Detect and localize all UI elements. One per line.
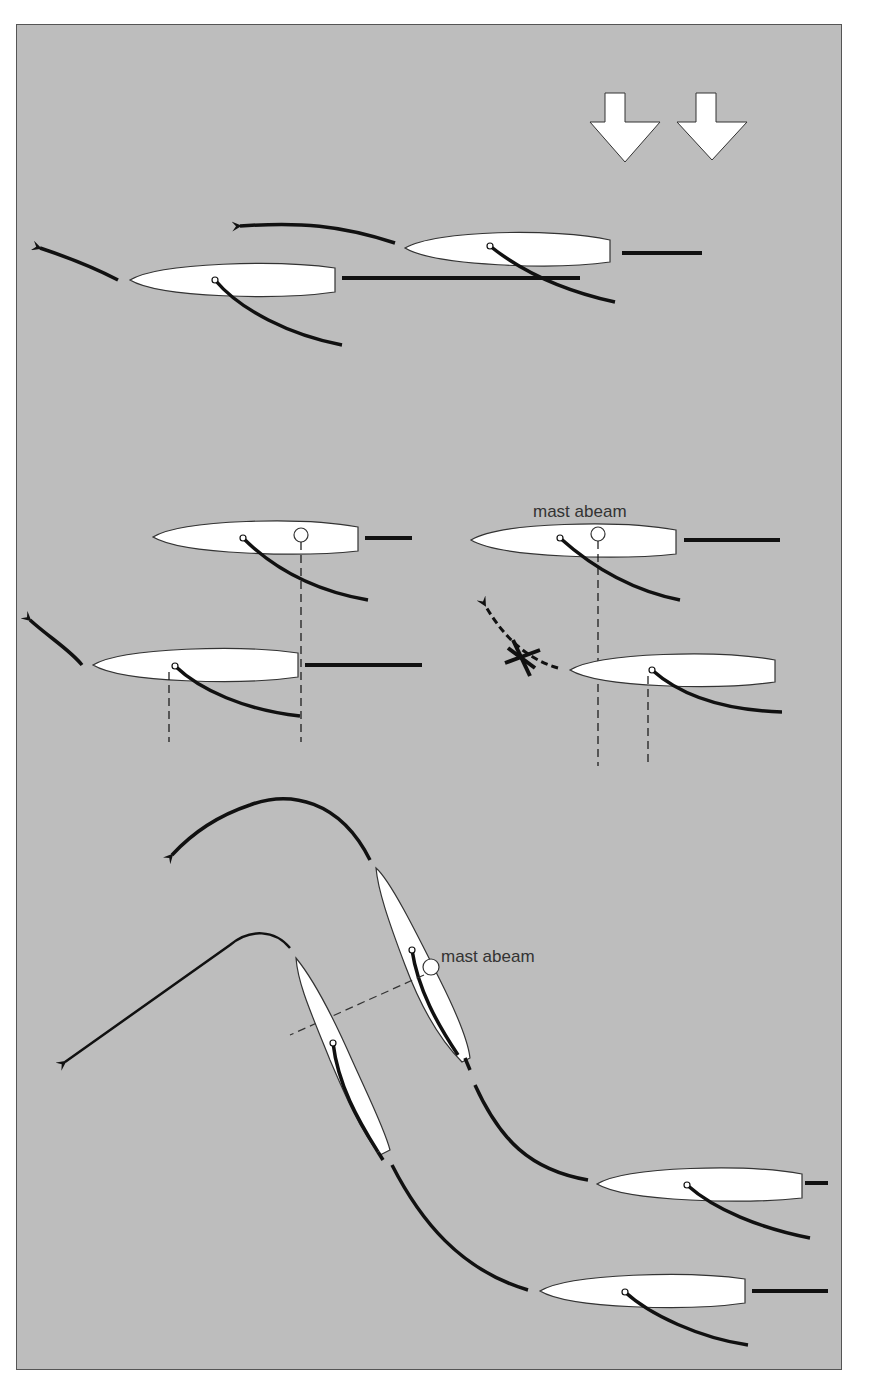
boat-lower-rotated <box>296 958 390 1155</box>
boat <box>570 654 775 686</box>
sailing-diagram: mast abeam mast abeam <box>0 0 874 1392</box>
mast-marker <box>294 528 308 542</box>
top-section <box>40 224 702 345</box>
middle-left-section <box>30 521 422 742</box>
bottom-section: mast abeam <box>65 799 828 1345</box>
wind-arrows-icon <box>590 93 747 162</box>
boat <box>93 649 298 682</box>
boat <box>540 1275 745 1308</box>
boat <box>130 264 335 297</box>
boat <box>471 524 676 557</box>
mast-abeam-label: mast abeam <box>533 502 627 521</box>
mast-marker <box>591 527 605 541</box>
middle-right-section: mast abeam <box>471 502 782 766</box>
boat <box>405 232 610 265</box>
mast-marker <box>423 959 439 975</box>
mast-abeam-label: mast abeam <box>441 947 535 966</box>
